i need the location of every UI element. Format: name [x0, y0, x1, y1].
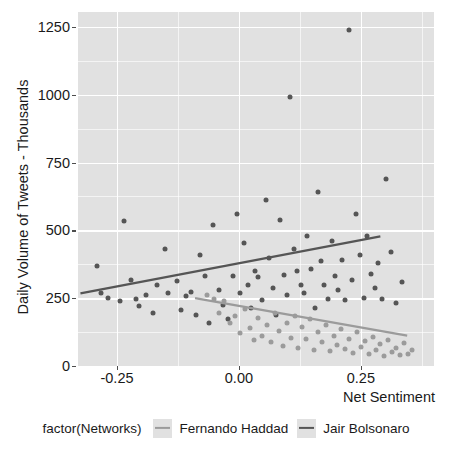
- x-axis-tick-mark: [117, 366, 118, 370]
- legend: factor(Networks) Fernando HaddadJair Bol…: [0, 416, 452, 440]
- legend-item-label: Fernando Haddad: [179, 421, 288, 436]
- x-axis-tick-label: 0.00: [204, 371, 274, 386]
- x-axis-tick-label: -0.25: [82, 371, 152, 386]
- regression-line: [80, 236, 380, 293]
- y-axis-tick-mark: [72, 27, 76, 28]
- x-axis-tick-label: 0.25: [326, 371, 396, 386]
- y-axis-title: Daily Volume of Tweets - Thousands: [15, 32, 31, 362]
- plot-panel: [78, 12, 434, 366]
- legend-key-icon: [153, 419, 172, 438]
- legend-title: factor(Networks): [42, 421, 141, 436]
- legend-item[interactable]: Fernando Haddad: [153, 419, 288, 438]
- regression-line: [195, 298, 407, 335]
- legend-item[interactable]: Jair Bolsonaro: [297, 419, 409, 438]
- legend-key-icon: [297, 419, 316, 438]
- y-axis-tick-mark: [72, 366, 76, 367]
- x-axis-tick-mark: [361, 366, 362, 370]
- scatter-plot-figure: 025050075010001250 Daily Volume of Tweet…: [0, 0, 452, 455]
- regression-lines: [78, 12, 434, 366]
- y-axis-tick-mark: [72, 163, 76, 164]
- y-axis-tick-mark: [72, 298, 76, 299]
- x-axis-title: Net Sentiment: [235, 389, 435, 405]
- x-axis-tick-mark: [239, 366, 240, 370]
- legend-item-label: Jair Bolsonaro: [323, 421, 409, 436]
- y-axis-tick-mark: [72, 95, 76, 96]
- y-axis-tick-mark: [72, 230, 76, 231]
